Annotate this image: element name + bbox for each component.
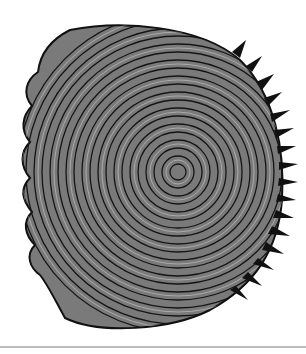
- horizontal-rule: [0, 346, 306, 348]
- scale-body: [18, 12, 306, 332]
- fish-scale-illustration: [0, 0, 306, 340]
